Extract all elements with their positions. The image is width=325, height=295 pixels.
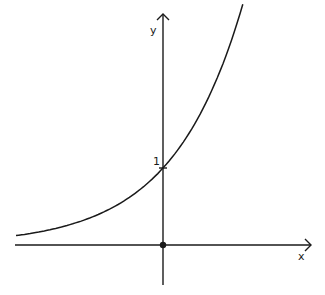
exponential-curve bbox=[16, 4, 243, 235]
graph: y x 1 bbox=[0, 0, 325, 295]
intercept-label: 1 bbox=[153, 155, 160, 168]
origin-dot bbox=[160, 242, 166, 248]
x-axis-label: x bbox=[298, 250, 305, 263]
y-axis-label: y bbox=[150, 24, 157, 37]
